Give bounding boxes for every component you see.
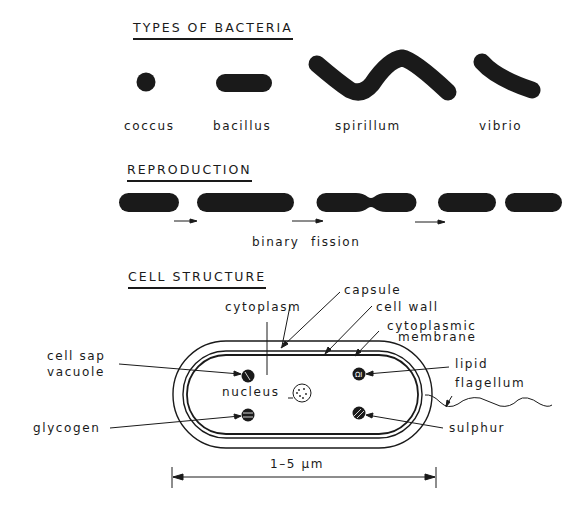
label-membrane: membrane: [398, 331, 476, 343]
label-coccus: coccus: [124, 120, 175, 132]
diagram-canvas: ΩI: [0, 0, 588, 520]
label-nucleus: nucleus: [222, 386, 280, 398]
arrow-icon: [174, 219, 197, 223]
label-vacuole: vacuole: [47, 366, 105, 378]
vibrio-shape: [482, 62, 532, 90]
label-dimension: 1–5 μm: [270, 458, 324, 470]
cell-sap-vacuole-granule: [242, 370, 255, 383]
label-vibrio: vibrio: [479, 120, 522, 132]
spirillum-shape: [317, 58, 448, 92]
heading-reproduction: REPRODUCTION: [127, 164, 252, 182]
label-cell-wall: cell wall: [376, 301, 439, 313]
svg-text:ΩI: ΩI: [355, 371, 362, 379]
heading-cell-structure: CELL STRUCTURE: [128, 271, 266, 289]
label-cell-sap: cell sap: [47, 350, 106, 362]
arrow-icon: [415, 220, 445, 224]
fission-daughter-1: [438, 193, 496, 212]
fission-daughter-2: [505, 193, 562, 212]
label-spirillum: spirillum: [335, 120, 401, 132]
glycogen-granule: [242, 409, 255, 422]
label-sulphur: sulphur: [449, 422, 505, 434]
arrow-icon: [292, 219, 323, 223]
label-capsule: capsule: [344, 284, 401, 296]
bacillus-shape: [216, 74, 272, 92]
label-lipid: lipid: [455, 358, 488, 370]
label-flagellum: flagellum: [455, 377, 525, 389]
fission-stage-2: [197, 193, 294, 212]
label-glycogen: glycogen: [33, 422, 100, 434]
label-binary-fission: binary fission: [252, 236, 361, 248]
flagellum: [425, 395, 552, 407]
fission-stage-1: [119, 193, 179, 212]
nucleus-body: [293, 384, 311, 402]
fission-stage-3: [317, 193, 417, 212]
label-cytoplasm: cytoplasm: [225, 301, 301, 313]
sulphur-granule: [353, 407, 366, 420]
label-bacillus: bacillus: [213, 120, 271, 132]
lipid-granule: ΩI: [353, 368, 366, 381]
coccus-shape: [137, 73, 156, 92]
